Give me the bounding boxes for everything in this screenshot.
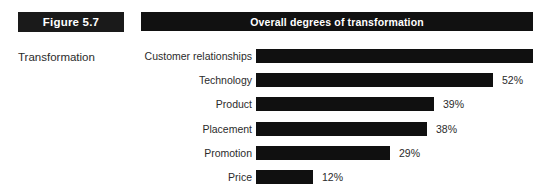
bar-fill: [256, 122, 427, 136]
bar-row: Customer relationships: [141, 49, 533, 63]
bar-chart: Overall degrees of transformation Custom…: [141, 0, 533, 194]
bar-track: 12%: [256, 170, 533, 184]
bar-track: 39%: [256, 97, 533, 111]
bar-fill: [256, 170, 313, 184]
bar-track: 52%: [256, 73, 533, 87]
bar-track: 29%: [256, 146, 533, 160]
bar-fill: [256, 73, 493, 87]
bar-row: Promotion29%: [141, 146, 533, 160]
bar-row: Technology52%: [141, 73, 533, 87]
bar-value-label: 29%: [399, 147, 420, 159]
bar-fill: [256, 97, 434, 111]
bar-value-label: 12%: [322, 171, 343, 183]
bar-category-label: Product: [216, 98, 252, 110]
figure-number-badge: Figure 5.7: [18, 12, 124, 32]
figure-caption: Transformation: [18, 51, 95, 63]
bar-category-label: Technology: [199, 74, 252, 86]
bar-value-label: 39%: [443, 98, 464, 110]
bar-category-label: Customer relationships: [145, 50, 252, 62]
bar-row: Product39%: [141, 97, 533, 111]
bar-track: 38%: [256, 122, 533, 136]
bar-category-label: Price: [228, 171, 252, 183]
chart-plot-area: Customer relationshipsTechnology52%Produ…: [141, 37, 533, 194]
bar-value-label: 52%: [502, 74, 523, 86]
chart-title-bar: Overall degrees of transformation: [141, 12, 533, 31]
bar-row: Price12%: [141, 170, 533, 184]
bar-category-label: Promotion: [204, 147, 252, 159]
bar-value-label: 38%: [436, 123, 457, 135]
bar-track: [256, 49, 533, 63]
bar-category-label: Placement: [202, 123, 252, 135]
figure-container: Figure 5.7 Transformation Overall degree…: [0, 0, 543, 194]
bar-row: Placement38%: [141, 122, 533, 136]
bar-fill: [256, 146, 390, 160]
bar-fill: [256, 49, 533, 63]
